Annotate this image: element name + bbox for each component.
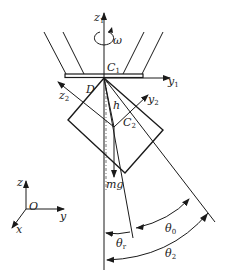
omega-arrowhead-icon <box>108 27 113 33</box>
label-mg: mg <box>106 178 123 191</box>
label-theta2: θ2 <box>165 247 176 261</box>
label-y2: y2 <box>147 93 159 107</box>
theta0-arc <box>136 199 189 228</box>
label-thetar: θr <box>116 237 127 251</box>
label-global-z: z <box>16 176 23 189</box>
theta0-line <box>104 78 215 222</box>
label-theta0: θ0 <box>165 222 176 236</box>
label-global-x: x <box>16 223 23 236</box>
label-h: h <box>113 99 120 112</box>
label-C2: C2 <box>123 116 136 130</box>
thetar-arc <box>106 232 130 234</box>
label-C1: C1 <box>107 61 120 75</box>
label-z2: z2 <box>58 89 69 103</box>
label-omega: ω <box>113 34 122 47</box>
label-D: D <box>85 83 95 96</box>
label-y1: y1 <box>167 75 179 89</box>
label-global-y: y <box>59 210 67 223</box>
mechanics-diagram: z1 ω C1 y1 D z2 y2 h C2 mg θ0 θr θ2 z O … <box>0 0 226 276</box>
label-origin-O: O <box>29 200 38 213</box>
theta0-arc-start-arrow-icon <box>136 224 144 230</box>
label-z1: z1 <box>93 11 104 25</box>
